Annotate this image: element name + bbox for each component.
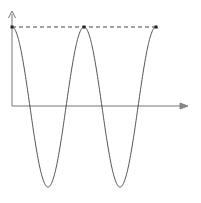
maxima-point bbox=[11, 26, 14, 29]
maxima-point bbox=[83, 26, 86, 29]
x-axis-arrow-icon bbox=[180, 103, 188, 109]
cosine-diagram bbox=[0, 0, 201, 203]
maxima-point bbox=[155, 26, 158, 29]
diagram-canvas bbox=[0, 0, 201, 203]
maxima-points bbox=[11, 26, 158, 29]
cosine-curve bbox=[12, 27, 158, 187]
